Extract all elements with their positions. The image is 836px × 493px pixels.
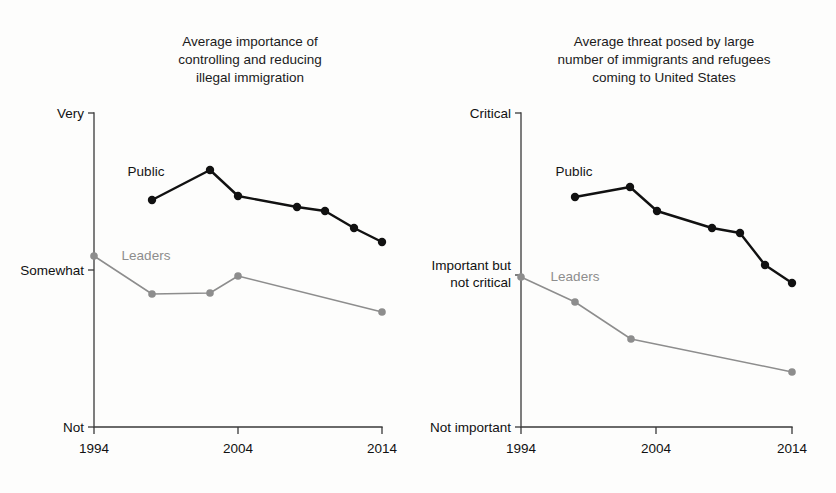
right-xtick-label-2004: 2004: [641, 441, 672, 456]
left-title-line-3: illegal immigration: [196, 70, 304, 85]
data-point: [736, 229, 744, 237]
data-point: [788, 368, 796, 376]
right-series-line-leaders: [521, 277, 792, 372]
data-point: [148, 290, 156, 298]
right-series-line-public: [575, 187, 792, 283]
data-point: [206, 166, 214, 174]
left-title-line-2: controlling and reducing: [178, 52, 321, 67]
data-point: [571, 193, 579, 201]
right-series-points-public: [571, 183, 796, 287]
data-point: [350, 224, 358, 232]
data-point: [206, 289, 214, 297]
right-series-label-leaders: Leaders: [551, 269, 600, 284]
data-point: [378, 308, 386, 316]
data-point: [90, 252, 98, 260]
right-ytick-label-important-line-2: not critical: [450, 275, 511, 290]
right-title-line-2: number of immigrants and refugees: [557, 52, 770, 67]
data-point: [761, 261, 769, 269]
right-series-points-leaders: [517, 273, 796, 376]
right-xtick-label-2014: 2014: [777, 441, 808, 456]
right-xtick-label-1994: 1994: [506, 441, 537, 456]
data-point: [293, 203, 301, 211]
data-point: [234, 272, 242, 280]
right-series-label-public: Public: [556, 164, 593, 179]
left-xtick-label-2004: 2004: [223, 441, 254, 456]
data-point: [234, 192, 242, 200]
chart-panel-left: Average importance of controlling and re…: [20, 34, 397, 456]
left-ytick-label-somewhat: Somewhat: [20, 263, 84, 278]
left-title-line-1: Average importance of: [182, 34, 318, 49]
data-point: [653, 207, 661, 215]
data-point: [378, 238, 386, 246]
data-point: [708, 224, 716, 232]
right-ytick-label-not-important: Not important: [430, 420, 511, 435]
right-ytick-label-critical: Critical: [470, 106, 511, 121]
left-series-label-public: Public: [128, 164, 165, 179]
right-ytick-label-important-line-1: Important but: [431, 258, 511, 273]
data-point: [627, 335, 635, 343]
left-series-label-leaders: Leaders: [122, 248, 171, 263]
data-point: [148, 196, 156, 204]
right-title-line-1: Average threat posed by large: [574, 34, 755, 49]
chart-panel-right: Average threat posed by large number of …: [430, 34, 808, 456]
data-point: [517, 273, 525, 281]
left-axis-lines: [94, 113, 382, 427]
left-series-line-public: [152, 170, 382, 242]
data-point: [571, 298, 579, 306]
right-panel-title: Average threat posed by large number of …: [557, 34, 770, 85]
left-ytick-label-very: Very: [57, 106, 84, 121]
right-title-line-3: coming to United States: [592, 70, 736, 85]
left-xtick-label-2014: 2014: [367, 441, 398, 456]
data-point: [788, 279, 796, 287]
left-series-points-public: [148, 166, 386, 246]
two-panel-line-chart-figure: Average importance of controlling and re…: [0, 0, 836, 493]
left-ytick-label-not: Not: [63, 420, 84, 435]
left-xtick-label-1994: 1994: [79, 441, 110, 456]
data-point: [321, 207, 329, 215]
left-panel-title: Average importance of controlling and re…: [178, 34, 321, 85]
data-point: [626, 183, 634, 191]
left-series-line-leaders: [94, 256, 382, 312]
